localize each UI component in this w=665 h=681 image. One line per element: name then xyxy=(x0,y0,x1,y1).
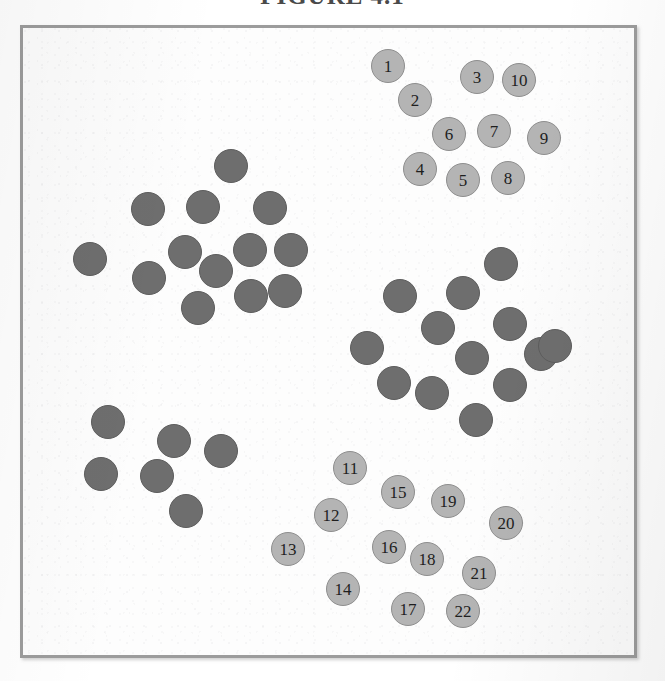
data-point-17: 17 xyxy=(391,592,425,626)
data-point-label: 19 xyxy=(440,492,457,509)
data-point-18: 18 xyxy=(410,542,444,576)
data-point-s2-2 xyxy=(446,276,480,310)
figure-title-strip: FIGURE 4.1 xyxy=(0,0,665,22)
data-point-s3-3 xyxy=(84,457,118,491)
data-point-8: 8 xyxy=(491,161,525,195)
data-point-label: 8 xyxy=(504,169,513,186)
data-point-20: 20 xyxy=(489,506,523,540)
data-point-label: 15 xyxy=(390,483,407,500)
data-point-4: 4 xyxy=(403,152,437,186)
data-point-label: 1 xyxy=(384,57,393,74)
data-point-s2-1 xyxy=(383,279,417,313)
data-point-label: 21 xyxy=(471,564,488,581)
page-title: FIGURE 4.1 xyxy=(0,0,665,10)
data-point-s0-4 xyxy=(73,242,107,276)
data-point-s2-4 xyxy=(421,311,455,345)
data-point-5: 5 xyxy=(446,163,480,197)
data-point-label: 13 xyxy=(280,540,297,557)
data-point-6: 6 xyxy=(432,117,466,151)
data-point-3: 3 xyxy=(460,60,494,94)
data-point-label: 7 xyxy=(490,122,499,139)
data-point-s0-8 xyxy=(132,261,166,295)
data-point-12: 12 xyxy=(314,498,348,532)
data-point-label: 18 xyxy=(419,550,436,567)
data-point-s2-6 xyxy=(455,341,489,375)
data-point-7: 7 xyxy=(477,114,511,148)
data-point-label: 22 xyxy=(455,602,472,619)
data-point-s3-2 xyxy=(204,434,238,468)
data-point-label: 2 xyxy=(411,91,420,108)
data-point-s0-11 xyxy=(234,279,268,313)
data-point-s0-10 xyxy=(181,291,215,325)
data-point-s0-7 xyxy=(274,233,308,267)
data-point-1: 1 xyxy=(371,49,405,83)
data-point-label: 9 xyxy=(540,129,549,146)
data-point-label: 12 xyxy=(323,506,340,523)
data-point-label: 17 xyxy=(400,600,417,617)
data-point-label: 4 xyxy=(416,160,425,177)
data-point-15: 15 xyxy=(381,475,415,509)
data-point-19: 19 xyxy=(431,484,465,518)
data-point-9: 9 xyxy=(527,121,561,155)
data-point-label: 10 xyxy=(511,71,528,88)
data-point-21: 21 xyxy=(462,556,496,590)
data-point-s0-6 xyxy=(233,233,267,267)
data-point-s0-3 xyxy=(253,191,287,225)
scatter-plot-area: 12310679458111519122013161821141722 xyxy=(23,28,634,655)
data-point-s3-1 xyxy=(157,424,191,458)
data-point-16: 16 xyxy=(372,530,406,564)
data-point-s3-0 xyxy=(91,405,125,439)
data-point-11: 11 xyxy=(333,451,367,485)
data-point-2: 2 xyxy=(398,83,432,117)
data-point-s2-9 xyxy=(415,376,449,410)
data-point-s2-8 xyxy=(377,366,411,400)
data-point-22: 22 xyxy=(446,594,480,628)
data-point-s0-9 xyxy=(199,254,233,288)
data-point-s2-11 xyxy=(459,403,493,437)
data-point-label: 14 xyxy=(335,580,352,597)
data-point-13: 13 xyxy=(271,532,305,566)
data-point-s0-2 xyxy=(186,190,220,224)
data-point-14: 14 xyxy=(326,572,360,606)
data-point-label: 6 xyxy=(445,125,454,142)
data-point-s2-12 xyxy=(538,329,572,363)
data-point-s0-0 xyxy=(214,149,248,183)
data-point-s3-4 xyxy=(140,459,174,493)
data-point-s3-5 xyxy=(169,494,203,528)
data-point-10: 10 xyxy=(502,63,536,97)
data-point-label: 16 xyxy=(381,538,398,555)
data-point-s0-5 xyxy=(168,235,202,269)
data-point-label: 11 xyxy=(342,459,358,476)
figure-frame: 12310679458111519122013161821141722 xyxy=(20,25,637,658)
data-point-label: 20 xyxy=(498,514,515,531)
data-point-s0-1 xyxy=(131,192,165,226)
data-point-label: 3 xyxy=(473,68,482,85)
data-point-s2-5 xyxy=(350,331,384,365)
data-point-s2-10 xyxy=(493,368,527,402)
data-point-s2-0 xyxy=(484,247,518,281)
data-point-s0-12 xyxy=(268,274,302,308)
data-point-s2-3 xyxy=(493,307,527,341)
data-point-label: 5 xyxy=(459,171,468,188)
